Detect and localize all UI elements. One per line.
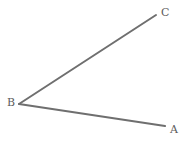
vertex-label-c: C [161, 7, 169, 18]
angle-figure [0, 0, 191, 144]
segment-ba-line [19, 104, 165, 126]
vertex-label-a: A [170, 124, 178, 135]
segment-bc-line [19, 15, 156, 104]
vertex-label-b: B [7, 97, 15, 108]
angle-diagram-canvas: C B A [0, 0, 191, 144]
